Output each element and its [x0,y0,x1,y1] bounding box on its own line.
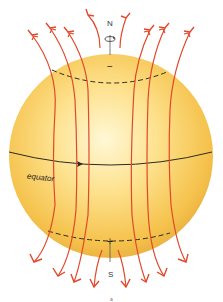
field-arrowheads-top-inner [32,29,190,40]
north-polarity-sign: − [107,61,113,72]
sun-sphere [9,54,213,258]
north-pole-label: N [107,19,113,28]
sun-diagram [0,0,223,302]
south-pole-label: S [108,270,113,279]
figure-mark: a [110,296,113,302]
south-polarity-sign: + [107,236,113,247]
